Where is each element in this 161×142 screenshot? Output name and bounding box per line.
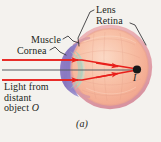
label-cornea: Cornea — [17, 46, 46, 57]
label-lens: Lens — [96, 5, 116, 16]
eye-optics-figure: Lens Retina Muscle Cornea Light from dis… — [0, 0, 161, 142]
leader-line-cornea — [50, 47, 66, 55]
label-muscle: Muscle — [31, 35, 61, 46]
leader-line-muscle — [63, 36, 79, 43]
object-symbol: O — [32, 102, 39, 113]
label-light-line-1: Light from — [4, 82, 49, 93]
label-retina: Retina — [96, 16, 123, 27]
label-light-source: Light from distant object O — [4, 82, 49, 114]
panel-label: (a) — [76, 119, 88, 130]
label-image-point: I — [133, 73, 136, 84]
label-light-line-3: object O — [4, 103, 49, 114]
